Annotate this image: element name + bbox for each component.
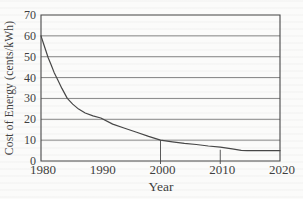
x-tick-label-1980: 1980 [25,163,61,177]
energy-cost-chart: Cost of Energy (cents/kWh) 7060504030201… [0,0,303,199]
y-tick-label-30: 30 [8,91,36,105]
y-tick-label-20: 20 [8,112,36,126]
x-tick-label-2020: 2020 [264,163,300,177]
axes-box [41,15,280,161]
y-tick-label-60: 60 [8,29,36,43]
x-axis-title: Year [126,179,196,195]
y-tick-label-10: 10 [8,133,36,147]
y-tick-label-50: 50 [8,50,36,64]
x-tick-label-2000: 2000 [145,163,181,177]
y-tick-label-40: 40 [8,71,36,85]
y-tick-label-70: 70 [8,8,36,22]
x-tick-label-1990: 1990 [85,163,121,177]
x-tick-label-2010: 2010 [204,163,240,177]
series-line-cost-of-energy [41,36,280,151]
